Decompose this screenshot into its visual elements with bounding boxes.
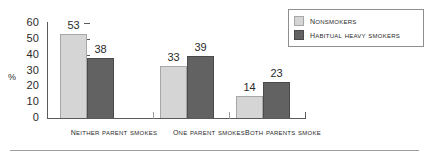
legend-item-habitual-heavy-smokers: Habitual heavy smokers <box>294 28 419 42</box>
legend-swatch-habitual-heavy-smokers <box>294 30 304 40</box>
bar-chart-figure: % 6050403020100 5338Neither parent smoke… <box>0 0 429 158</box>
bottom-divider <box>10 150 419 151</box>
legend-label-nonsmokers: Nonsmokers <box>310 15 357 27</box>
x-axis-category-label: Both parents smoke <box>213 126 353 138</box>
legend-swatch-nonsmokers <box>294 16 304 26</box>
chart-legend: Nonsmokers Habitual heavy smokers <box>288 9 424 47</box>
bar-value-label: 38 <box>81 43 120 56</box>
bar <box>160 66 187 118</box>
legend-label-habitual-heavy-smokers: Habitual heavy smokers <box>310 29 400 41</box>
bar <box>87 58 114 118</box>
bar <box>263 82 290 118</box>
legend-item-nonsmokers: Nonsmokers <box>294 14 419 28</box>
bar-value-label: 23 <box>257 67 296 80</box>
bar <box>236 96 263 118</box>
bar-value-label: 53 <box>54 19 93 32</box>
bar-value-label: 39 <box>181 41 220 54</box>
bar <box>187 56 214 118</box>
